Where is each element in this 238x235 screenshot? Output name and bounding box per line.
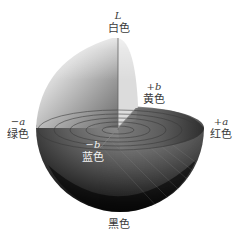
green-label: 绿色 xyxy=(5,129,31,140)
label-plus-b: +b 黄色 xyxy=(142,82,166,105)
dome-highlight xyxy=(30,20,150,80)
label-minus-b: −b 蓝色 xyxy=(80,140,106,163)
red-label: 红色 xyxy=(208,129,234,140)
label-bottom: 黑色 xyxy=(106,217,132,230)
label-l-axis: L 白色 xyxy=(108,11,128,34)
white-label: 白色 xyxy=(108,23,128,34)
minus-a-symbol: −a xyxy=(5,117,31,127)
plus-b-symbol: +b xyxy=(142,82,166,92)
plus-a-symbol: +a xyxy=(208,117,234,127)
lab-color-solid-diagram xyxy=(0,0,238,235)
black-label: 黑色 xyxy=(106,219,132,230)
minus-b-symbol: −b xyxy=(80,140,106,150)
label-minus-a: −a 绿色 xyxy=(5,117,31,140)
blue-label: 蓝色 xyxy=(80,152,106,163)
l-axis-symbol: L xyxy=(108,11,128,21)
label-plus-a: +a 红色 xyxy=(208,117,234,140)
yellow-label: 黄色 xyxy=(142,94,166,105)
